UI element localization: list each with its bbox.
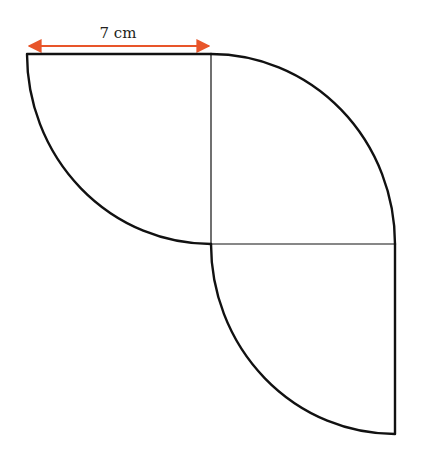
quarter-circles-diagram: 7 cm <box>0 0 421 450</box>
quarter-circle-top-right <box>211 54 395 244</box>
dimension-label: 7 cm <box>100 24 137 42</box>
quarter-circle-bottom-right <box>211 244 395 434</box>
quarter-circle-top-left <box>27 54 211 244</box>
